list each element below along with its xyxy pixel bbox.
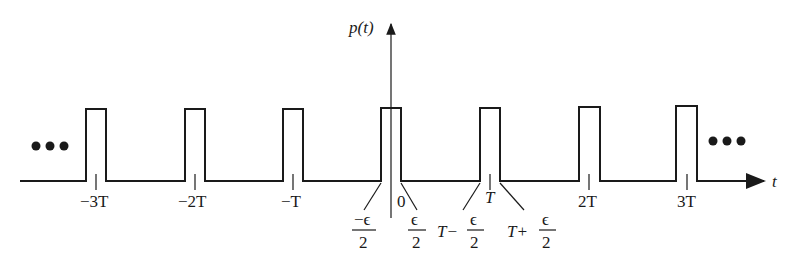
svg-text:ϵ: ϵ bbox=[542, 210, 549, 229]
svg-text:ϵ: ϵ bbox=[470, 210, 477, 229]
leader-lines bbox=[364, 183, 524, 210]
tick-label-T: T bbox=[485, 188, 496, 207]
svg-text:2: 2 bbox=[359, 233, 368, 252]
annotation-pos-half-width: ϵ 2 bbox=[408, 210, 426, 252]
svg-text:T−: T− bbox=[437, 222, 458, 241]
ellipsis-right-icon bbox=[709, 137, 746, 146]
tick-label-negT: −T bbox=[281, 192, 302, 211]
annotation-T-minus: T− ϵ 2 bbox=[437, 210, 484, 252]
annotation-neg-half-width: −ϵ 2 bbox=[352, 210, 376, 252]
x-axis-label: t bbox=[772, 172, 778, 191]
y-axis-label: p(t) bbox=[348, 18, 374, 37]
pulse-train bbox=[20, 106, 764, 181]
svg-text:ϵ: ϵ bbox=[411, 210, 418, 229]
ellipsis-left-icon bbox=[32, 142, 69, 151]
tick-label-2T: 2T bbox=[578, 192, 598, 211]
svg-text:2: 2 bbox=[470, 233, 479, 252]
pulse-train-diagram: p(t) t −3T −2T −T 0 T 2T 3T −ϵ 2 ϵ 2 T− … bbox=[0, 0, 792, 261]
svg-text:T+: T+ bbox=[507, 222, 528, 241]
svg-text:2: 2 bbox=[542, 233, 551, 252]
annotation-T-plus: T+ ϵ 2 bbox=[507, 210, 556, 252]
tick-label-neg2T: −2T bbox=[178, 192, 207, 211]
tick-label-neg3T: −3T bbox=[80, 192, 109, 211]
tick-label-3T: 3T bbox=[677, 192, 697, 211]
tick-label-zero: 0 bbox=[397, 192, 406, 211]
svg-text:−ϵ: −ϵ bbox=[354, 210, 371, 229]
svg-text:2: 2 bbox=[412, 233, 421, 252]
